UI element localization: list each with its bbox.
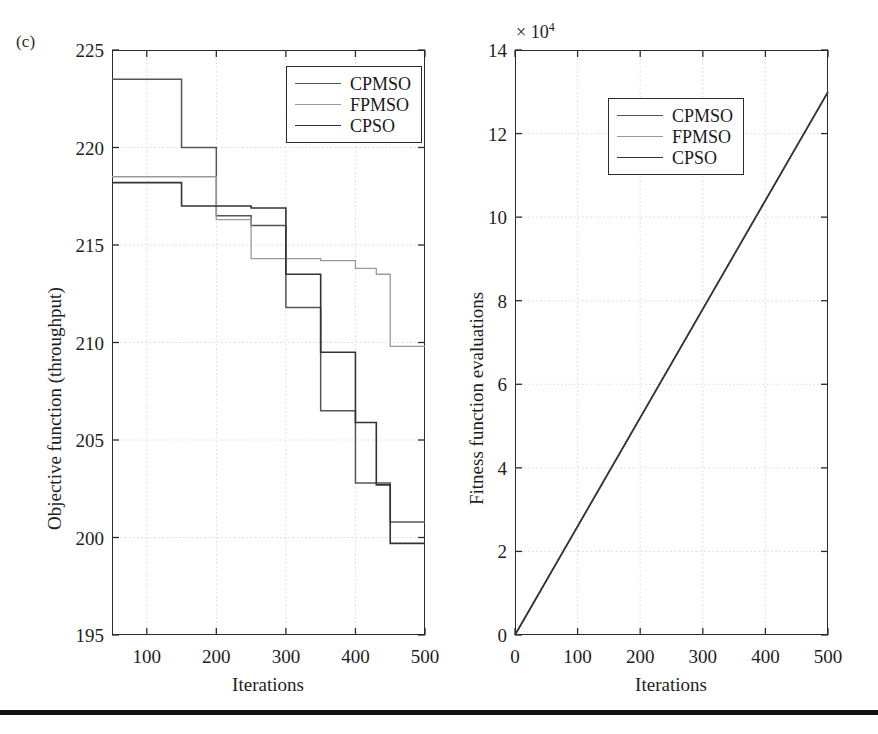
legend-label-cpmso: CPMSO <box>672 107 733 125</box>
legend-line-swatch-icon <box>617 157 663 158</box>
left-x-tick-100: 100 <box>133 647 162 666</box>
right-y-tick-14: 14 <box>453 41 507 60</box>
legend-label-cpso: CPSO <box>350 117 395 135</box>
exponent-power: 4 <box>549 20 555 34</box>
legend-line-swatch-icon <box>295 104 341 105</box>
figure-container: (c) 195200205210215220225 10020030040050… <box>0 0 878 734</box>
series-line-fpmso <box>112 177 425 347</box>
left-x-tick-200: 200 <box>202 647 231 666</box>
legend-line-swatch-icon <box>617 115 663 116</box>
left-y-tick-220: 220 <box>50 138 104 157</box>
legend-line-swatch-icon <box>295 83 341 84</box>
left-x-tick-300: 300 <box>272 647 301 666</box>
legend-row-cpso: CPSO <box>295 115 411 136</box>
legend-row-cpmso: CPMSO <box>617 105 733 126</box>
right-y-tick-12: 12 <box>453 124 507 143</box>
legend-label-fpmso: FPMSO <box>672 128 731 146</box>
series-line-cpso <box>112 183 425 544</box>
right-x-tick-500: 500 <box>814 647 843 666</box>
series-line-cpmso <box>112 79 425 522</box>
left-y-tick-225: 225 <box>50 41 104 60</box>
right-y-tick-0: 0 <box>453 626 507 645</box>
right-x-tick-200: 200 <box>626 647 655 666</box>
left-y-tick-215: 215 <box>50 236 104 255</box>
right-y-axis-exponent: × 104 <box>516 20 555 43</box>
left-y-tick-200: 200 <box>50 528 104 547</box>
legend-label-cpso: CPSO <box>672 149 717 167</box>
right-y-tick-10: 10 <box>453 208 507 227</box>
legend-line-swatch-icon <box>617 136 663 137</box>
legend-row-cpso: CPSO <box>617 147 733 168</box>
right-plot-legend: CPMSOFPMSOCPSO <box>608 98 744 175</box>
legend-line-swatch-icon <box>295 125 341 126</box>
left-x-tick-500: 500 <box>411 647 440 666</box>
left-x-tick-400: 400 <box>341 647 370 666</box>
panel-label-c: (c) <box>16 32 35 52</box>
left-x-axis-title: Iterations <box>232 674 304 696</box>
exponent-mantissa: × 10 <box>516 22 549 42</box>
legend-row-fpmso: FPMSO <box>617 126 733 147</box>
left-y-axis-title: Objective function (throughput) <box>44 287 66 530</box>
right-x-tick-100: 100 <box>563 647 592 666</box>
legend-label-fpmso: FPMSO <box>350 96 409 114</box>
left-y-tick-195: 195 <box>50 626 104 645</box>
legend-label-cpmso: CPMSO <box>350 75 411 93</box>
legend-row-fpmso: FPMSO <box>295 94 411 115</box>
right-x-tick-0: 0 <box>510 647 520 666</box>
right-x-tick-300: 300 <box>689 647 718 666</box>
left-plot-legend: CPMSOFPMSOCPSO <box>286 66 422 143</box>
right-x-axis-title: Iterations <box>635 674 707 696</box>
legend-row-cpmso: CPMSO <box>295 73 411 94</box>
right-y-tick-2: 2 <box>453 542 507 561</box>
right-y-axis-title: Fitness function evaluations <box>466 292 488 505</box>
right-x-tick-400: 400 <box>751 647 780 666</box>
bottom-divider-rule <box>0 710 878 715</box>
